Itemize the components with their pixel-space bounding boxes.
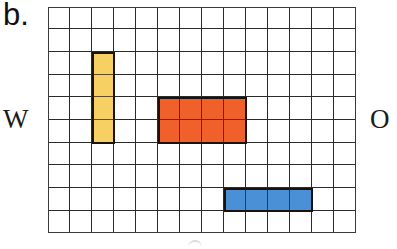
- panel-label: b.: [3, 0, 29, 33]
- east-label: O: [370, 104, 390, 135]
- west-label: W: [3, 104, 28, 135]
- grid-frame: [48, 7, 356, 234]
- cropped-bottom-label: [188, 240, 202, 249]
- grid: [48, 7, 356, 234]
